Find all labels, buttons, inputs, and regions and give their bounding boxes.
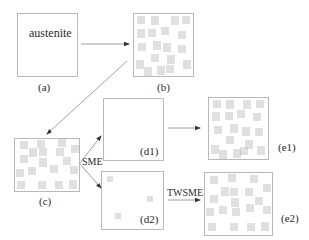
label-e2: (e2)	[281, 213, 299, 224]
label-b: (b)	[157, 82, 170, 93]
arrow-c-to-d2	[80, 164, 101, 188]
label-e1: (e1)	[278, 142, 296, 153]
arrow-b-to-c	[47, 61, 127, 134]
label-d1: (d1)	[140, 146, 158, 157]
label-c: (c)	[39, 196, 51, 207]
twsme-label: TWSME	[167, 188, 203, 198]
label-a: (a)	[38, 82, 50, 93]
panel-a	[18, 14, 78, 77]
panel-c	[15, 139, 80, 192]
panel-e1	[209, 98, 269, 160]
label-d2: (d2)	[140, 214, 158, 225]
panel-a-box	[18, 14, 78, 77]
sme-label: SME	[82, 157, 103, 167]
austenite-text: austenite	[29, 27, 72, 39]
panel-b	[134, 14, 194, 77]
panel-e2	[205, 173, 273, 236]
